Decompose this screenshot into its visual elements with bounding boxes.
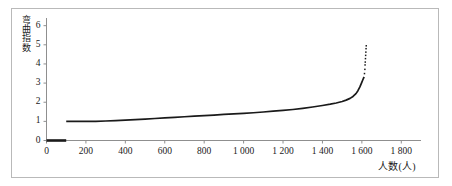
- y-axis-title-char: 数: [20, 44, 33, 53]
- x-axis-tick-label: 1 600: [351, 147, 372, 157]
- x-axis-tick-label: 0: [44, 147, 49, 157]
- x-axis-tick-label: 1 400: [312, 147, 333, 157]
- data-point: [364, 73, 366, 75]
- data-point: [366, 45, 368, 47]
- x-axis-title: 人数(人): [378, 158, 416, 173]
- y-axis-title: 弯 曲 指 数: [20, 16, 33, 53]
- data-point: [365, 55, 367, 57]
- data-point: [365, 51, 367, 53]
- x-axis-tick-label: 800: [197, 147, 211, 157]
- data-point: [365, 48, 367, 50]
- x-axis-tick-label: 1 800: [391, 147, 412, 157]
- data-point: [365, 58, 367, 60]
- y-axis-tick-label: 0: [25, 136, 41, 146]
- data-series-group: [47, 45, 368, 140]
- x-axis-tick-label: 200: [79, 147, 93, 157]
- axis-lines: [47, 18, 422, 141]
- data-point: [364, 69, 366, 71]
- x-axis-tick-label: 1 200: [272, 147, 293, 157]
- y-axis-tick-label: 2: [25, 97, 41, 107]
- y-axis-tick-label: 4: [25, 59, 41, 69]
- x-axis-tick-label: 600: [158, 147, 172, 157]
- data-series-line: [66, 77, 364, 121]
- y-axis-tick-label: 3: [25, 78, 41, 88]
- data-point: [364, 64, 366, 66]
- chart-plot-area: 02004006008001 0001 2001 4001 6001 800 0…: [0, 0, 452, 186]
- y-axis-tick-label: 1: [25, 117, 41, 127]
- x-axis-tick-label: 400: [118, 147, 132, 157]
- x-axis-tick-label: 1 000: [233, 147, 254, 157]
- data-point: [365, 61, 367, 63]
